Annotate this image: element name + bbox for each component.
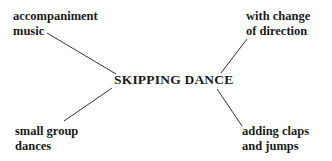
connector-top-left: [47, 33, 116, 74]
connector-bottom-right: [217, 89, 242, 126]
branch-line: small group: [15, 124, 78, 139]
branch-accompaniment-music: accompaniment music: [13, 9, 98, 39]
branch-line: and jumps: [242, 139, 309, 154]
connector-top-right: [221, 39, 247, 73]
connector-bottom-left: [64, 88, 112, 121]
branch-small-group-dances: small group dances: [15, 124, 78, 154]
branch-line: dances: [15, 139, 78, 154]
branch-line: accompaniment: [13, 9, 98, 24]
branch-line: of direction: [246, 24, 310, 39]
branch-claps-and-jumps: adding claps and jumps: [242, 124, 309, 154]
branch-line: music: [13, 24, 98, 39]
central-topic: SKIPPING DANCE: [114, 72, 233, 88]
branch-change-of-direction: with change of direction: [246, 9, 310, 39]
branch-line: with change: [246, 9, 310, 24]
branch-line: adding claps: [242, 124, 309, 139]
